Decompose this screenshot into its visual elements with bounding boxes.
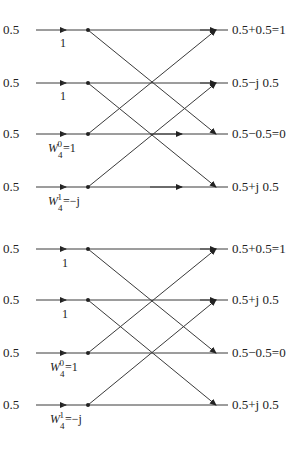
node-dots	[86, 28, 90, 407]
bottom-input-3: 0.5	[3, 398, 19, 412]
top-output-3: 0.5+j 0.5	[232, 180, 279, 194]
twiddle-base: W	[50, 360, 60, 374]
bottom-output-1: 0.5+j 0.5	[232, 293, 279, 307]
top-input-1: 0.5	[3, 76, 19, 90]
bottom-output-0: 0.5+0.5=1	[232, 242, 286, 256]
bottom-output-3: 0.5+j 0.5	[232, 398, 279, 412]
twiddle-sup: 0	[60, 358, 65, 368]
top-output-0: 0.5+0.5=1	[232, 23, 286, 37]
bottom-input-1: 0.5	[3, 293, 19, 307]
twiddle-sub: 4	[58, 150, 63, 160]
top-twiddle-1: 1	[60, 89, 66, 103]
twiddle-base: W	[48, 194, 58, 208]
twiddle-sub: 4	[60, 421, 65, 431]
top-output-1: 0.5−j 0.5	[232, 76, 279, 90]
twiddle-eq: =1	[63, 141, 76, 155]
butterfly-diagram	[0, 0, 307, 451]
top-twiddle-0: 1	[60, 36, 66, 50]
twiddle-base: W	[50, 412, 60, 426]
top-butterfly	[36, 30, 228, 187]
bottom-twiddle-3: W41=−j	[50, 412, 82, 427]
twiddle-eq: =−j	[63, 194, 80, 208]
twiddle-sub: 4	[58, 203, 63, 213]
twiddle-sup: 0	[58, 139, 63, 149]
twiddle-eq: =1	[65, 360, 78, 374]
bottom-butterfly	[36, 249, 228, 405]
twiddle-eq: =−j	[65, 412, 82, 426]
top-twiddle-2: W40=1	[48, 141, 76, 156]
twiddle-sup: 1	[60, 410, 65, 420]
twiddle-sub: 4	[60, 369, 65, 379]
top-output-2: 0.5−0.5=0	[232, 127, 286, 141]
top-input-3: 0.5	[3, 180, 19, 194]
top-input-2: 0.5	[3, 127, 19, 141]
bottom-input-0: 0.5	[3, 242, 19, 256]
top-input-0: 0.5	[3, 23, 19, 37]
bottom-twiddle-2: W40=1	[50, 360, 78, 375]
bottom-twiddle-1: 1	[62, 307, 68, 321]
bottom-output-2: 0.5−0.5=0	[232, 346, 286, 360]
bottom-twiddle-0: 1	[62, 256, 68, 270]
twiddle-base: W	[48, 141, 58, 155]
twiddle-sup: 1	[58, 192, 63, 202]
top-twiddle-3: W41=−j	[48, 194, 80, 209]
bottom-input-2: 0.5	[3, 346, 19, 360]
